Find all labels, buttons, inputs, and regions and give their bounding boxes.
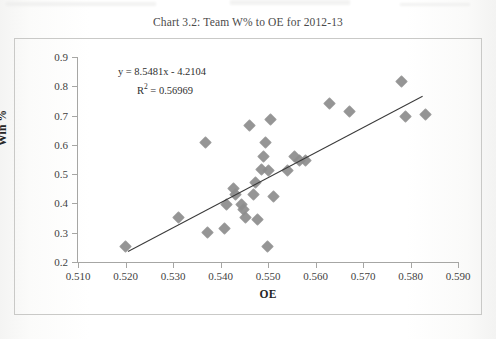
scatter-point [323, 97, 336, 110]
scan-artifact [400, 3, 470, 6]
y-axis-tick [72, 116, 77, 117]
scan-artifact [230, 0, 350, 5]
y-axis-tick [72, 233, 77, 234]
y-axis-title: Win % [0, 110, 8, 146]
scatter-point [199, 136, 212, 149]
y-axis-tick-label: 0.3 [24, 227, 68, 239]
y-axis-tick [72, 262, 77, 263]
y-axis-tick [72, 203, 77, 204]
x-axis-tick [411, 263, 412, 268]
scatter-point [261, 240, 274, 253]
scanned-page: Chart 3.2: Team W% to OE for 2012-13 0.2… [0, 0, 496, 339]
scatter-point [343, 105, 356, 118]
y-axis-tick [72, 86, 77, 87]
scatter-point [259, 136, 272, 149]
scatter-point [399, 110, 412, 123]
y-axis-tick-label: 0.6 [24, 139, 68, 151]
scatter-point [247, 188, 260, 201]
y-axis-tick-label: 0.4 [24, 197, 68, 209]
y-axis-tick [72, 57, 77, 58]
y-axis-tick-label: 0.2 [24, 256, 68, 268]
x-axis-tick [268, 263, 269, 268]
scatter-point [218, 222, 231, 235]
x-axis-tick [221, 263, 222, 268]
y-axis-tick-label: 0.5 [24, 168, 68, 180]
scatter-point [201, 226, 214, 239]
plot-area [78, 57, 458, 262]
y-axis-tick-label: 0.8 [24, 80, 68, 92]
x-axis-tick-label: 0.590 [428, 270, 488, 282]
x-axis-title: OE [78, 288, 458, 300]
x-axis-tick [173, 263, 174, 268]
x-axis-tick [78, 263, 79, 268]
scatter-point [257, 150, 270, 163]
scatter-point [251, 213, 264, 226]
scatter-point [264, 113, 277, 126]
scan-artifact [6, 2, 156, 6]
y-axis-tick-label: 0.7 [24, 110, 68, 122]
scatter-point [267, 190, 280, 203]
y-axis-tick-label: 0.9 [24, 51, 68, 63]
x-axis-tick [458, 263, 459, 268]
y-axis-tick [72, 145, 77, 146]
chart-title: Chart 3.2: Team W% to OE for 2012-13 [0, 16, 496, 28]
x-axis-tick [363, 263, 364, 268]
scatter-point [244, 119, 257, 132]
scatter-point [396, 75, 409, 88]
scatter-point [419, 108, 432, 121]
x-axis-tick [316, 263, 317, 268]
x-axis-tick [126, 263, 127, 268]
y-axis-tick [72, 174, 77, 175]
